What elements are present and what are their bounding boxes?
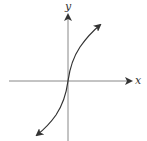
function-graph: y x [0, 0, 147, 141]
function-curve [68, 25, 100, 81]
y-axis-label: y [64, 0, 72, 13]
function-curve-lower [37, 81, 68, 135]
x-axis-label: x [135, 74, 142, 87]
